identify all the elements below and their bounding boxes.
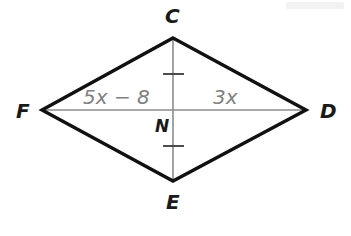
vertex-label-c: C [165, 6, 180, 26]
vertex-label-d: D [320, 101, 337, 121]
segment-label-nd: 3x [213, 87, 238, 107]
vertex-label-n: N [155, 118, 169, 135]
vertex-label-f: F [16, 101, 30, 121]
geometry-figure: C D E F N 5x − 8 3x [0, 0, 351, 236]
vertex-label-e: E [166, 192, 180, 212]
segment-label-fn: 5x − 8 [83, 87, 150, 107]
